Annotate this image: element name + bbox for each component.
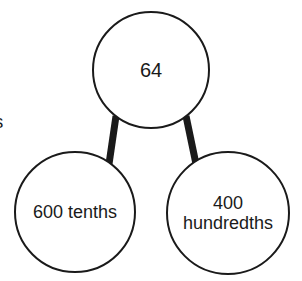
connector-root-to-left-child	[109, 116, 116, 164]
circle-left-child-node	[15, 152, 135, 272]
number-bond-graphic	[0, 0, 302, 281]
circle-root-node	[93, 12, 209, 128]
connector-root-to-right-child	[186, 116, 196, 164]
clipped-margin-text: ns	[0, 112, 3, 133]
circle-right-child-node	[167, 152, 289, 274]
diagram-canvas: 64 600 tenths 400 hundredths ns	[0, 0, 302, 281]
